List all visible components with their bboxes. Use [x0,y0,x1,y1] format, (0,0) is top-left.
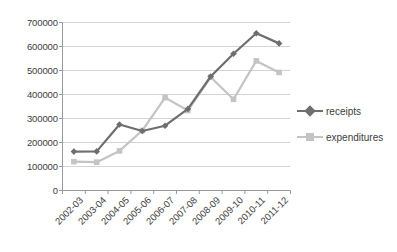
legend-swatch-expenditures [297,131,323,143]
legend-label-expenditures: expenditures [326,132,383,143]
legend-item-expenditures[interactable]: expenditures [297,124,397,150]
chart-legend: receipts expenditures [297,98,397,150]
legend-item-receipts[interactable]: receipts [297,98,397,124]
legend-label-receipts: receipts [326,106,361,117]
legend-swatch-receipts [297,105,323,117]
line-chart: 0100000200000300000400000500000600000700… [0,0,397,252]
